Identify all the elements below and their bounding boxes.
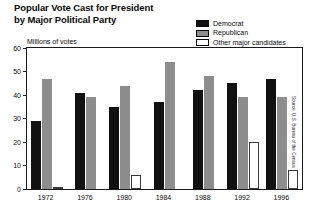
legend-label-other: Other major candidates xyxy=(213,39,286,47)
bar-democrat-1980 xyxy=(109,107,119,189)
y-axis-tick-label: 50 xyxy=(13,68,23,75)
bar-group xyxy=(66,48,105,189)
bar-republican-1992 xyxy=(238,97,248,189)
legend-item-republican: Republican xyxy=(196,29,320,38)
bar-republican-1980 xyxy=(120,86,130,189)
legend-item-other: Other major candidates xyxy=(196,38,320,47)
y-axis-tick-label: 60 xyxy=(13,45,23,52)
bar-republican-1996 xyxy=(277,97,287,189)
plot-area xyxy=(27,48,302,189)
chart-legend: Democrat Republican Other major candidat… xyxy=(196,19,320,48)
legend-swatch-republican-icon xyxy=(196,30,209,37)
title-line-1: Popular Vote Cast for President xyxy=(14,2,244,14)
bar-other-major-candidates-1980 xyxy=(131,175,141,189)
legend-swatch-democrat-icon xyxy=(196,20,209,27)
x-axis-tick-label: 1976 xyxy=(65,194,104,202)
bar-democrat-1976 xyxy=(75,93,85,189)
plot-frame xyxy=(26,47,303,190)
bar-group xyxy=(27,48,66,189)
bar-democrat-1996 xyxy=(266,79,276,189)
y-axis-tick-label: 40 xyxy=(13,92,23,99)
bar-democrat-1984 xyxy=(154,102,164,189)
legend-item-democrat: Democrat xyxy=(196,19,320,28)
y-axis-ticks: 0102030405060 xyxy=(0,47,26,190)
bar-group xyxy=(263,48,302,189)
bar-group xyxy=(145,48,184,189)
y-axis-tick-label: 30 xyxy=(13,115,23,122)
bar-group xyxy=(106,48,145,189)
source-note: Source: U.S. Bureau of the Census xyxy=(291,96,296,168)
bar-other-major-candidates-1996 xyxy=(288,170,298,189)
bar-other-major-candidates-1972 xyxy=(53,187,63,189)
x-axis-tick-label: 1988 xyxy=(183,194,222,202)
bar-other-major-candidates-1992 xyxy=(249,142,259,189)
bar-democrat-1988 xyxy=(193,90,203,189)
bar-democrat-1972 xyxy=(31,121,41,189)
x-axis-labels: 1972197619801984198819921996 xyxy=(26,194,303,206)
y-axis-tick-label: 20 xyxy=(13,139,23,146)
y-axis-tick-label: 10 xyxy=(13,162,23,169)
bar-group xyxy=(184,48,223,189)
bar-republican-1976 xyxy=(86,97,96,189)
bar-republican-1984 xyxy=(165,62,175,189)
x-axis-tick-label: 1992 xyxy=(222,194,261,202)
bar-republican-1988 xyxy=(204,76,214,189)
legend-label-democrat: Democrat xyxy=(213,20,243,28)
bar-republican-1972 xyxy=(42,79,52,189)
legend-swatch-other-icon xyxy=(196,39,209,46)
x-axis-tick-label: 1996 xyxy=(262,194,301,202)
bar-democrat-1992 xyxy=(227,83,237,189)
x-axis-tick-label: 1980 xyxy=(105,194,144,202)
y-axis-label: Millions of votes xyxy=(27,38,77,45)
bar-group xyxy=(223,48,262,189)
chart-page: Popular Vote Cast for President by Major… xyxy=(0,0,321,216)
legend-label-republican: Republican xyxy=(213,29,248,37)
x-axis-tick-label: 1972 xyxy=(26,194,65,202)
x-axis-tick-label: 1984 xyxy=(144,194,183,202)
